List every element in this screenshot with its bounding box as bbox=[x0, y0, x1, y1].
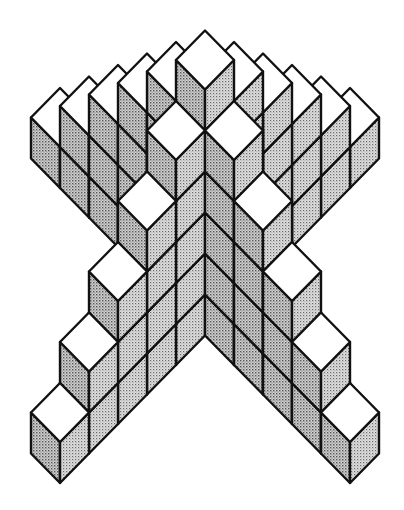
isometric-cube-structure bbox=[0, 0, 404, 510]
cube-layer bbox=[31, 31, 379, 484]
diagram-canvas bbox=[0, 0, 404, 510]
